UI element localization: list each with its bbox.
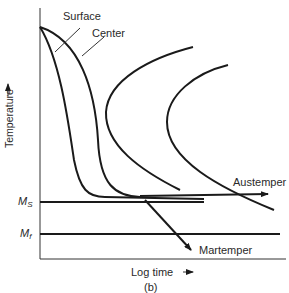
ms-label: MS — [18, 196, 33, 209]
center-cooling-curve — [40, 27, 140, 197]
center-label: Center — [92, 28, 125, 39]
surface-label: Surface — [63, 11, 101, 22]
mf-label: Mf — [20, 228, 31, 241]
surface-leader — [55, 28, 80, 52]
austemper-label: Austemper — [233, 177, 286, 188]
x-axis-label: Log time — [131, 267, 173, 278]
transformation-start-curve — [106, 47, 193, 190]
austemper-arrow — [140, 194, 268, 196]
surface-cooling-curve — [40, 27, 204, 199]
martemper-arrow — [145, 200, 191, 250]
martemper-label: Martemper — [199, 245, 252, 256]
center-leader — [82, 37, 104, 56]
caption: (b) — [144, 282, 157, 293]
transformation-finish-curve — [167, 65, 274, 210]
y-axis-label: Temperature — [3, 89, 15, 148]
